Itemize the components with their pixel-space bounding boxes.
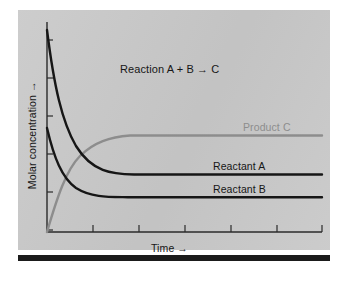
series-line-product-c bbox=[47, 136, 322, 233]
series-label-reactant-b: Reactant B bbox=[213, 184, 266, 195]
x-axis-label: Time → bbox=[151, 243, 188, 254]
y-axis-label: Molar concentration → bbox=[27, 65, 38, 205]
x-axis-ticks bbox=[93, 225, 322, 232]
chart-plot-area bbox=[0, 0, 346, 283]
series-label-product-c: Product C bbox=[243, 122, 291, 133]
figure-canvas: Reaction A + B → C Product C Reactant A … bbox=[0, 0, 346, 283]
series-label-reactant-a: Reactant A bbox=[213, 161, 265, 172]
series-line-reactant-a bbox=[47, 30, 322, 175]
chart-title: Reaction A + B → C bbox=[120, 64, 219, 75]
series-line-reactant-b bbox=[47, 128, 322, 197]
